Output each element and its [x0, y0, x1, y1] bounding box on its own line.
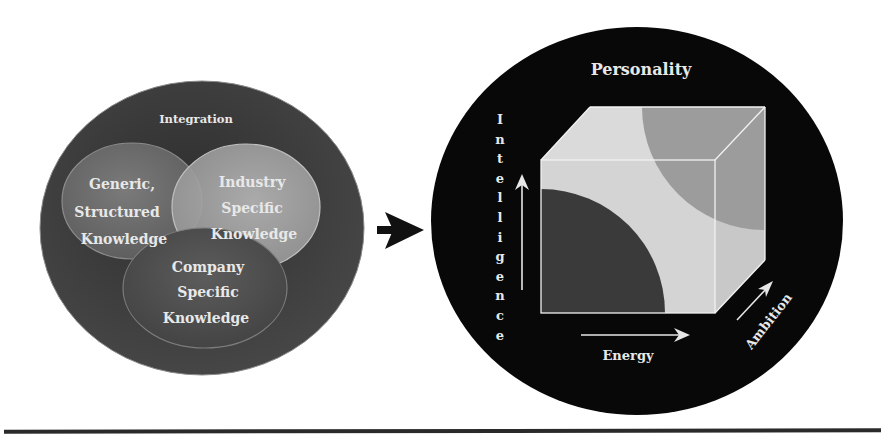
intelligence-letter: g [495, 249, 504, 264]
intelligence-letter: c [496, 308, 504, 323]
industry-line-3: Knowledge [211, 226, 298, 242]
intelligence-letter: e [496, 328, 504, 343]
personality-model: Personality [417, 0, 888, 436]
knowledge-venn: Integration Generic, Structured Knowledg… [40, 81, 364, 375]
intelligence-letter: e [496, 171, 504, 186]
intelligence-letter: I [497, 112, 503, 127]
company-line-1: Company [172, 259, 245, 275]
generic-line-3: Knowledge [81, 231, 168, 247]
industry-line-1: Industry [219, 174, 286, 190]
generic-line-1: Generic, [89, 176, 155, 192]
intelligence-letter: e [496, 269, 504, 284]
company-line-3: Knowledge [163, 310, 250, 326]
personality-title: Personality [591, 60, 692, 79]
intelligence-letter: l [498, 210, 503, 225]
generic-line-2: Structured [74, 204, 160, 220]
arrow-right-icon [377, 212, 424, 249]
intelligence-letter: t [497, 151, 503, 166]
energy-axis-label: Energy [602, 348, 654, 363]
intelligence-letter: n [495, 288, 505, 303]
generic-knowledge-label: Generic, Structured Knowledge [74, 176, 167, 247]
bottom-rule-divider [4, 428, 881, 434]
diagram-canvas: Integration Generic, Structured Knowledg… [0, 0, 888, 436]
integration-label: Integration [159, 112, 233, 126]
company-line-2: Specific [177, 284, 238, 300]
intelligence-letter: l [498, 190, 503, 205]
intelligence-letter: i [498, 230, 503, 245]
intelligence-letter: n [495, 132, 505, 147]
industry-line-2: Specific [221, 200, 282, 216]
